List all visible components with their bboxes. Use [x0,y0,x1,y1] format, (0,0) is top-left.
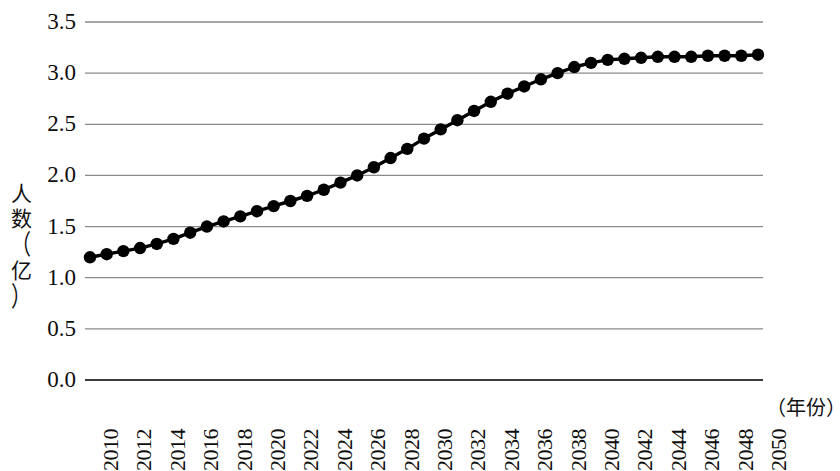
data-point-marker: 2032: 2.54 [451,114,463,126]
x-axis-tick-label: 2010 [98,429,124,471]
data-point-marker: 2043: 3.15 [635,52,647,64]
x-axis-tick-label: 2028 [399,429,425,471]
data-point-marker: 2018: 1.55 [217,215,229,227]
data-point-marker: 2029: 2.26 [401,143,413,155]
y-axis-tick-label: 1.0 [30,265,76,291]
data-point-marker: 2033: 2.63 [468,105,480,117]
x-axis-tick-label: 2046 [699,429,725,471]
x-axis-tick-label: 2030 [432,429,458,471]
data-point-marker: 2034: 2.72 [485,96,497,108]
data-point-marker: 2035: 2.8 [501,87,513,99]
data-point-marker: 2039: 3.06 [568,61,580,73]
data-point-marker: 2030: 2.36 [418,132,430,144]
y-axis-tick-labels: 3.53.02.52.01.51.00.50.0 [28,0,76,431]
data-point-marker: 2014: 1.33 [151,238,163,250]
data-point-marker: 2042: 3.14 [618,53,630,65]
data-point-marker: 2010: 1.2 [84,251,96,263]
data-point-marker: 2038: 3 [551,67,563,79]
x-axis-tick-label: 2016 [198,429,224,471]
data-point-marker: 2041: 3.13 [602,54,614,66]
plot-area: 2010: 1.22011: 1.232012: 1.262013: 1.292… [85,22,763,380]
x-axis-tick-label: 2042 [632,429,658,471]
data-point-marker: 2028: 2.17 [384,152,396,164]
data-point-marker: 2048: 3.17 [718,50,730,62]
x-axis-tick-labels: 2010201220142016201820202022202420262028… [85,381,763,431]
data-point-marker: 2027: 2.08 [368,161,380,173]
data-point-marker: 2050: 3.18 [752,49,764,61]
data-point-marker: 2020: 1.65 [251,205,263,217]
x-axis-title: （年份） [766,392,840,421]
data-point-marker: 2045: 3.16 [668,51,680,63]
data-point-marker: 2026: 2 [351,169,363,181]
y-axis-tick-label: 3.5 [30,9,76,35]
x-axis-tick-label: 2020 [265,429,291,471]
data-point-marker: 2022: 1.75 [284,195,296,207]
x-axis-tick-label: 2034 [499,429,525,471]
x-axis-tick-label: 2048 [733,429,759,471]
x-axis-tick-label: 2050 [766,429,792,471]
x-axis-tick-label: 2036 [532,429,558,471]
data-point-marker: 2013: 1.29 [134,242,146,254]
y-axis-tick-label: 3.0 [30,60,76,86]
x-axis-tick-label: 2044 [666,429,692,471]
data-point-marker: 2015: 1.38 [167,233,179,245]
data-point-marker: 2012: 1.26 [117,245,129,257]
data-point-marker: 2040: 3.1 [585,57,597,69]
x-axis-tick-label: 2018 [232,429,258,471]
x-axis-tick-label: 2040 [599,429,625,471]
y-axis-tick-label: 1.5 [30,214,76,240]
data-point-marker: 2016: 1.44 [184,227,196,239]
x-axis-tick-label: 2022 [298,429,324,471]
data-point-marker: 2044: 3.16 [652,51,664,63]
data-point-marker: 2046: 3.16 [685,51,697,63]
data-point-marker: 2017: 1.5 [201,220,213,232]
data-point-marker: 2036: 2.87 [518,80,530,92]
x-axis-tick-label: 2014 [165,429,191,471]
x-axis-tick-label: 2024 [332,429,358,471]
data-point-marker: 2025: 1.93 [334,176,346,188]
y-axis-tick-label: 2.5 [30,111,76,137]
data-point-marker: 2031: 2.45 [435,123,447,135]
x-axis-tick-label: 2012 [131,429,157,471]
data-point-marker: 2049: 3.17 [735,50,747,62]
data-point-marker: 2023: 1.8 [301,190,313,202]
x-axis-tick-label: 2026 [365,429,391,471]
data-point-marker: 2047: 3.17 [702,50,714,62]
y-axis-tick-label: 0.5 [30,316,76,342]
y-axis-tick-label: 2.0 [30,162,76,188]
data-point-marker: 2019: 1.6 [234,210,246,222]
data-point-marker: 2021: 1.7 [268,200,280,212]
data-series-population: 2010: 1.22011: 1.232012: 1.262013: 1.292… [85,22,763,380]
x-axis-tick-label: 2038 [566,429,592,471]
y-axis-tick-label: 0.0 [30,367,76,393]
data-point-marker: 2011: 1.23 [101,248,113,260]
data-point-marker: 2024: 1.86 [318,184,330,196]
data-point-marker: 2037: 2.94 [535,73,547,85]
x-axis-tick-label: 2032 [465,429,491,471]
